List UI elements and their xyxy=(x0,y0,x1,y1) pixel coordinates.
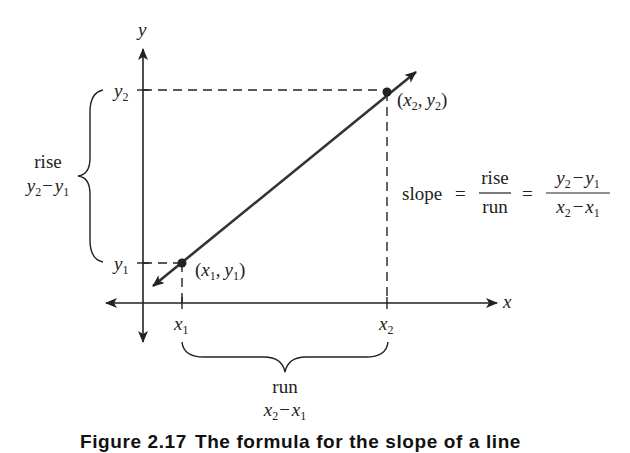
sloped-line xyxy=(153,72,416,286)
formula-eq-2: = xyxy=(522,183,533,204)
fraction-denominator: x2−x1 xyxy=(555,196,600,220)
fraction-numerator: y2−y1 xyxy=(554,167,600,191)
slope-formula: slope = rise run = y2−y1 x2−x1 xyxy=(402,167,610,220)
x2-label: x2 xyxy=(378,313,393,337)
figure-caption: Figure 2.17The formula for the slope of … xyxy=(80,431,521,453)
point-p1 xyxy=(178,259,187,268)
x-axis-label: x xyxy=(502,291,512,312)
rise-expression: y2−y1 xyxy=(25,175,70,199)
run-brace xyxy=(182,342,388,372)
rise-brace xyxy=(78,90,103,262)
figure-number: Figure 2.17 xyxy=(80,431,187,452)
run-label: run xyxy=(272,376,298,397)
figure-caption-text: The formula for the slope of a line xyxy=(195,431,521,452)
y-axis-label: y xyxy=(136,19,147,40)
point-p2 xyxy=(383,88,392,97)
rise-label: rise xyxy=(34,151,61,172)
fraction-run: run xyxy=(482,196,508,217)
x1-label: x1 xyxy=(173,313,188,337)
point-p1-label: (x1,y1) xyxy=(195,259,245,283)
formula-lhs: slope xyxy=(402,183,442,204)
formula-eq-1: = xyxy=(455,183,466,204)
run-expression: x2−x1 xyxy=(263,399,307,423)
point-p2-label: (x2,y2) xyxy=(397,89,447,113)
fraction-rise: rise xyxy=(481,167,508,188)
y1-label: y1 xyxy=(112,253,128,277)
y2-label: y2 xyxy=(112,80,128,104)
